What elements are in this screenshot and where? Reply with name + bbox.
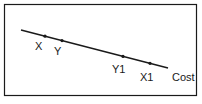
point-y-marker	[60, 39, 63, 42]
point-y1-marker	[121, 55, 124, 58]
point-x1-label: X1	[140, 71, 153, 83]
diagram-canvas: X Y Y1 X1 Cost	[0, 0, 202, 104]
point-x-marker	[43, 35, 46, 38]
point-y-label: Y	[54, 45, 62, 57]
point-y1-label: Y1	[112, 63, 125, 75]
point-x-label: X	[35, 40, 43, 52]
cost-label: Cost	[172, 71, 195, 83]
point-x1-marker	[148, 62, 151, 65]
